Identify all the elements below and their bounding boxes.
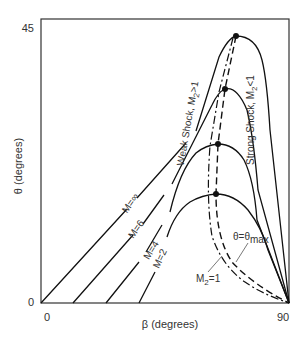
theta-beta-mach-chart: 45 0 0 90 β (degrees) θ (degrees) M=∞ M=… [0, 0, 303, 345]
x-tick-0: 0 [44, 311, 50, 323]
label-m2-equals-1: M2=1 [196, 273, 221, 287]
x-tick-90: 90 [277, 311, 289, 323]
x-axis-label: β (degrees) [142, 318, 198, 330]
label-strong-shock: Strong Shock, M2<1 [245, 75, 259, 165]
curve-m-6 [73, 89, 289, 303]
peak-dot-m-2 [213, 191, 219, 197]
peak-dot-m-6 [222, 86, 228, 92]
label-m-infinity: M=∞ [120, 191, 141, 215]
label-weak-shock: Weak Shock, M2>1 [175, 80, 204, 167]
label-m-6: M=6 [126, 217, 147, 240]
y-tick-45: 45 [22, 22, 34, 34]
peak-dot-m-infinity [233, 33, 239, 39]
y-tick-0: 0 [28, 296, 34, 308]
y-axis-label: θ (degrees) [12, 138, 24, 194]
label-theta-max: θ=θmax [233, 231, 269, 245]
leader-theta-max [236, 243, 248, 262]
peak-dot-m-4 [215, 141, 221, 147]
leader-m2-equals-1 [208, 256, 222, 272]
